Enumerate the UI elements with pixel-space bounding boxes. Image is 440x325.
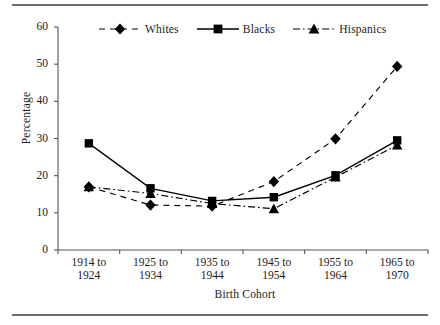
marker-square xyxy=(270,193,278,201)
x-tick-label-line: 1935 to xyxy=(179,256,245,269)
series-line-whites xyxy=(89,66,397,206)
x-tick-label-line: 1954 xyxy=(241,269,307,282)
x-tick-label: 1914 to1924 xyxy=(56,256,122,282)
x-tick-label-line: 1964 xyxy=(303,269,369,282)
x-tick-label-line: 1934 xyxy=(118,269,184,282)
y-tick-label: 30 xyxy=(22,133,48,145)
x-tick-label: 1925 to1934 xyxy=(118,256,184,282)
x-tick-label-line: 1955 to xyxy=(303,256,369,269)
marker-triangle xyxy=(269,204,279,214)
marker-diamond xyxy=(330,133,340,144)
marker-square xyxy=(85,139,93,147)
data-series xyxy=(84,61,403,213)
marker-diamond xyxy=(145,199,155,210)
x-tick-label-line: 1944 xyxy=(179,269,245,282)
x-tick-label: 1965 to1970 xyxy=(364,256,430,282)
y-tick-label: 0 xyxy=(22,244,48,256)
marker-diamond xyxy=(269,176,279,187)
x-tick-label-line: 1965 to xyxy=(364,256,430,269)
y-tick-label: 40 xyxy=(22,95,48,107)
x-tick-label-line: 1924 xyxy=(56,269,122,282)
x-tick-label: 1935 to1944 xyxy=(179,256,245,282)
x-tick-label: 1945 to1954 xyxy=(241,256,307,282)
y-tick-label: 20 xyxy=(22,170,48,182)
figure-container: Percentage Birth Cohort Whites Blacks Hi… xyxy=(0,0,440,325)
y-tick-label: 10 xyxy=(22,207,48,219)
x-tick-label-line: 1914 to xyxy=(56,256,122,269)
axes xyxy=(54,27,428,254)
x-tick-label: 1955 to1964 xyxy=(303,256,369,282)
x-tick-label-line: 1925 to xyxy=(118,256,184,269)
y-tick-label: 60 xyxy=(22,21,48,33)
x-tick-label-line: 1970 xyxy=(364,269,430,282)
x-tick-label-line: 1945 to xyxy=(241,256,307,269)
y-tick-label: 50 xyxy=(22,58,48,70)
